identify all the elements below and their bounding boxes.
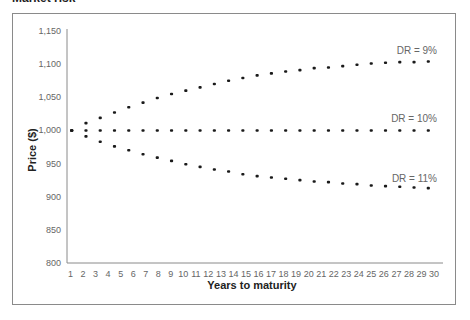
data-point	[141, 153, 144, 156]
chart-plot: 8008509009501,0001,0501,1001,150 1234567…	[0, 0, 470, 320]
data-point	[70, 129, 73, 132]
x-tick-label: 14	[228, 269, 238, 279]
data-point	[398, 129, 401, 132]
data-point	[427, 187, 430, 190]
data-point	[270, 129, 273, 132]
data-point	[327, 181, 330, 184]
data-point	[412, 129, 415, 132]
y-tick-label: 900	[46, 192, 61, 202]
data-point	[427, 60, 430, 63]
x-tick-label: 30	[429, 269, 439, 279]
x-tick-label: 15	[241, 269, 251, 279]
data-point	[213, 83, 216, 86]
data-point	[313, 67, 316, 70]
x-tick-label: 19	[291, 269, 301, 279]
data-point	[313, 129, 316, 132]
data-point	[213, 129, 216, 132]
data-point	[227, 170, 230, 173]
data-point	[412, 61, 415, 64]
data-point	[156, 97, 159, 100]
data-point	[113, 111, 116, 114]
data-point	[170, 160, 173, 163]
y-tick-label: 1,150	[38, 26, 61, 36]
series-label: DR = 9%	[397, 45, 437, 56]
x-tick-label: 3	[93, 269, 98, 279]
data-point	[298, 69, 301, 72]
data-point	[284, 178, 287, 181]
x-axis: 1234567891011121314151617181920212223242…	[67, 263, 443, 279]
data-point	[84, 122, 87, 125]
data-point	[355, 129, 358, 132]
data-point	[298, 129, 301, 132]
x-tick-label: 27	[391, 269, 401, 279]
data-point	[384, 185, 387, 188]
data-point	[384, 129, 387, 132]
data-point	[184, 163, 187, 166]
data-point	[341, 65, 344, 68]
data-point	[313, 180, 316, 183]
data-point	[256, 175, 259, 178]
data-point	[127, 129, 130, 132]
data-point	[184, 89, 187, 92]
data-point	[256, 74, 259, 77]
series-2	[70, 129, 430, 132]
data-point	[412, 186, 415, 189]
x-tick-label: 9	[168, 269, 173, 279]
data-point	[170, 93, 173, 96]
data-point	[270, 176, 273, 179]
x-tick-label: 29	[416, 269, 426, 279]
x-tick-label: 18	[279, 269, 289, 279]
data-point	[241, 77, 244, 80]
data-point	[113, 145, 116, 148]
x-tick-label: 1	[68, 269, 73, 279]
x-tick-label: 20	[304, 269, 314, 279]
data-point	[99, 129, 102, 132]
x-tick-label: 11	[191, 269, 200, 279]
x-tick-label: 5	[118, 269, 123, 279]
series-3	[70, 129, 430, 189]
y-tick-label: 950	[46, 159, 61, 169]
x-tick-label: 28	[404, 269, 414, 279]
y-tick-label: 850	[46, 225, 61, 235]
x-tick-label: 21	[316, 269, 326, 279]
series-labels: DR = 9%DR = 10%DR = 11%	[391, 45, 437, 184]
x-tick-label: 23	[341, 269, 351, 279]
data-point	[184, 129, 187, 132]
data-point	[156, 156, 159, 159]
y-tick-label: 1,000	[38, 125, 61, 135]
data-point	[398, 185, 401, 188]
data-point	[198, 86, 201, 89]
data-point	[156, 129, 159, 132]
x-tick-label: 16	[254, 269, 264, 279]
data-point	[370, 62, 373, 65]
data-point	[227, 79, 230, 82]
data-point	[198, 129, 201, 132]
data-point	[427, 129, 430, 132]
x-tick-label: 6	[131, 269, 136, 279]
series-label: DR = 10%	[391, 113, 437, 124]
x-tick-label: 22	[329, 269, 339, 279]
data-point	[141, 101, 144, 104]
data-point	[113, 129, 116, 132]
data-point	[341, 182, 344, 185]
data-point	[355, 64, 358, 67]
data-point	[284, 70, 287, 73]
x-tick-label: 12	[203, 269, 213, 279]
data-point	[370, 129, 373, 132]
y-axis: 8008509009501,0001,0501,1001,150	[38, 26, 67, 268]
data-point	[227, 129, 230, 132]
x-tick-label: 4	[106, 269, 111, 279]
x-tick-label: 7	[143, 269, 148, 279]
data-point	[127, 149, 130, 152]
data-point	[284, 129, 287, 132]
data-point	[84, 135, 87, 138]
x-tick-label: 8	[156, 269, 161, 279]
x-tick-label: 2	[81, 269, 86, 279]
x-tick-label: 13	[216, 269, 226, 279]
series-label: DR = 11%	[392, 173, 437, 184]
data-point	[327, 66, 330, 69]
x-tick-label: 10	[178, 269, 188, 279]
data-point	[327, 129, 330, 132]
series-1	[70, 60, 430, 132]
y-tick-label: 1,050	[38, 92, 61, 102]
